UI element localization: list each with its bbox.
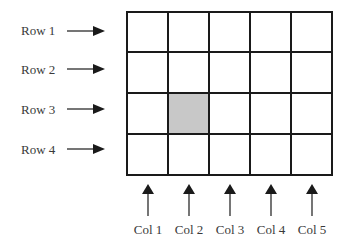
col-label-2: Col 2 — [169, 223, 209, 237]
right-arrow-icon — [67, 26, 105, 36]
grid — [126, 11, 333, 176]
row-label-2: Row 2 — [21, 63, 55, 77]
row-label-3: Row 3 — [21, 103, 55, 117]
col-label-4: Col 4 — [251, 223, 291, 237]
up-arrow-icon — [265, 184, 277, 216]
right-arrow-icon — [67, 104, 105, 114]
up-arrow-icon — [306, 184, 318, 216]
right-arrow-icon — [67, 64, 105, 74]
up-arrow-icon — [224, 184, 236, 216]
col-label-5: Col 5 — [292, 223, 332, 237]
highlighted-cell-row3-col2 — [168, 93, 209, 134]
col-label-3: Col 3 — [210, 223, 250, 237]
up-arrow-icon — [142, 184, 154, 216]
up-arrow-icon — [183, 184, 195, 216]
row-label-4: Row 4 — [21, 143, 55, 157]
col-label-1: Col 1 — [128, 223, 168, 237]
row-label-1: Row 1 — [21, 24, 55, 38]
right-arrow-icon — [67, 144, 105, 154]
